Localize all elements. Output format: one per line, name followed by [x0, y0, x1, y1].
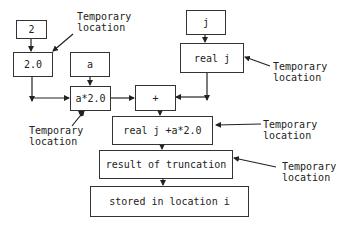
annotation-line2: location: [282, 172, 336, 183]
annotation-line2: location: [77, 22, 131, 33]
annotation-temp-location-3: Temporary location: [29, 125, 83, 147]
node-real-j: real j: [180, 43, 244, 73]
annotation-line1: Temporary: [77, 11, 131, 22]
node-store: stored in location i: [90, 186, 249, 217]
node-a: a: [70, 52, 110, 77]
node-plus: +: [135, 85, 176, 111]
annotation-line1: Temporary: [282, 161, 336, 172]
annotation-line1: Temporary: [263, 119, 317, 130]
annotation-line2: location: [263, 130, 317, 141]
annotation-temp-location-1: Temporary location: [77, 11, 131, 33]
annotation-line1: Temporary: [29, 125, 83, 136]
node-sum: real j +a*2.0: [112, 116, 213, 145]
annotation-line1: Temporary: [273, 61, 327, 72]
node-2-0: 2.0: [13, 52, 53, 77]
annotation-temp-location-2: Temporary location: [273, 61, 327, 83]
annotation-temp-location-5: Temporary location: [282, 161, 336, 183]
node-truncation: result of truncation: [99, 150, 233, 179]
node-j: j: [186, 10, 226, 35]
node-a-times-2: a*2.0: [70, 86, 111, 111]
annotation-temp-location-4: Temporary location: [263, 119, 317, 141]
annotation-line2: location: [29, 136, 83, 147]
node-2: 2: [16, 20, 47, 39]
annotation-line2: location: [273, 72, 327, 83]
